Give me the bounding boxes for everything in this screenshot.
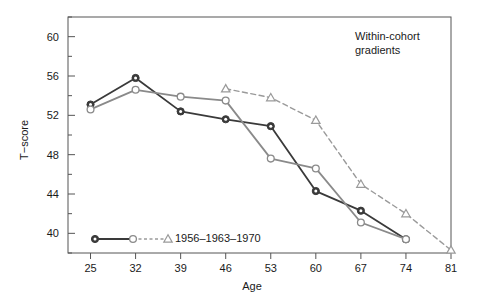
data-point-marker [403,236,410,243]
line-chart: 404448525660 253239465360677481 T−score … [0,0,478,306]
x-tick-label: 53 [265,262,277,274]
y-tick-label: 56 [47,70,59,82]
y-tick-label: 40 [47,227,59,239]
y-tick-label: 60 [47,31,59,43]
x-tick-label: 74 [400,262,412,274]
data-point-marker [314,190,317,193]
data-point-marker [312,165,319,172]
data-point-marker [134,76,137,79]
y-axis-title: T−score [18,120,30,160]
data-point-marker [222,97,229,104]
y-tick-label: 44 [47,188,59,200]
annotation-line-1: Within-cohort [355,30,420,42]
y-tick-label: 48 [47,149,59,161]
x-axis-title: Age [242,280,262,292]
data-point-marker [267,155,274,162]
data-point-marker [269,125,272,128]
x-tick-label: 46 [220,262,232,274]
annotation-line-2: gradients [355,44,401,56]
x-tick-label: 25 [84,262,96,274]
data-point-marker [359,209,362,212]
legend-label: 1956–1963–1970 [175,232,261,244]
x-tick-label: 32 [129,262,141,274]
data-point-marker [132,86,139,93]
data-point-marker [177,93,184,100]
data-point-marker [179,110,182,113]
data-point-marker [130,236,137,243]
x-tick-label: 67 [355,262,367,274]
x-tick-label: 39 [175,262,187,274]
figure-container: 404448525660 253239465360677481 T−score … [0,0,478,306]
y-tick-label: 52 [47,109,59,121]
data-point-marker [224,118,227,121]
data-point-marker [357,219,364,226]
chart-background [0,0,478,306]
x-tick-label: 60 [310,262,322,274]
x-tick-label: 81 [445,262,457,274]
data-point-marker [94,238,97,241]
data-point-marker [87,106,94,113]
